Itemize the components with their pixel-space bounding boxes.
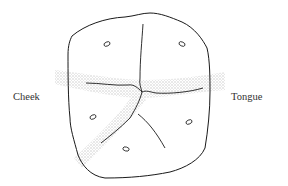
cusp-mark (103, 41, 110, 47)
cusp-mark (185, 119, 192, 125)
shaded-band-diagonal (74, 92, 146, 168)
groove-diagonal-right (138, 114, 165, 148)
tongue-label: Tongue (231, 91, 262, 102)
cheek-label: Cheek (13, 91, 40, 102)
cusp-mark (89, 114, 96, 120)
cusp-mark (178, 41, 185, 47)
cusp-mark (122, 146, 129, 152)
